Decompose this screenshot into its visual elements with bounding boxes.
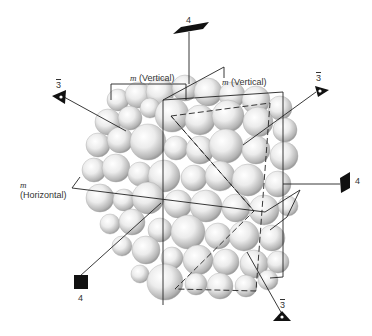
- mirror-horizontal-label: m(Horizontal): [20, 180, 67, 200]
- threefold-marker-right: [315, 86, 329, 97]
- mirror-symbol: m: [130, 73, 137, 83]
- axis-4-top-label: 4: [186, 15, 191, 25]
- axis-3bar-left-label: 3: [56, 80, 61, 90]
- mirror-orientation: (Vertical): [231, 77, 267, 87]
- threefold-marker-bottom: [273, 311, 291, 321]
- mirror-orientation: (Horizontal): [20, 190, 67, 200]
- mirror-symbol: m: [20, 180, 27, 190]
- mirror-symbol: m: [222, 77, 229, 87]
- axis-4-front-label: 4: [78, 293, 83, 303]
- axis-3bar-right-label: 3: [316, 73, 321, 83]
- axis-4-right-label: 4: [355, 176, 360, 186]
- axis-3bar-bottom-label: 3: [280, 300, 285, 310]
- threefold-marker-left: [52, 90, 66, 104]
- sphere-cluster: [82, 75, 298, 300]
- mirror-vertical-1-label: m (Vertical): [130, 73, 175, 83]
- diagram-canvas: [0, 0, 372, 336]
- fourfold-marker-right: [340, 172, 350, 193]
- mirror-orientation: (Vertical): [139, 73, 175, 83]
- symmetry-diagram: 4 m (Vertical) m (Vertical) m(Horizontal…: [0, 0, 372, 336]
- mirror-vertical-2-label: m (Vertical): [222, 77, 267, 87]
- fourfold-marker-front: [74, 275, 88, 289]
